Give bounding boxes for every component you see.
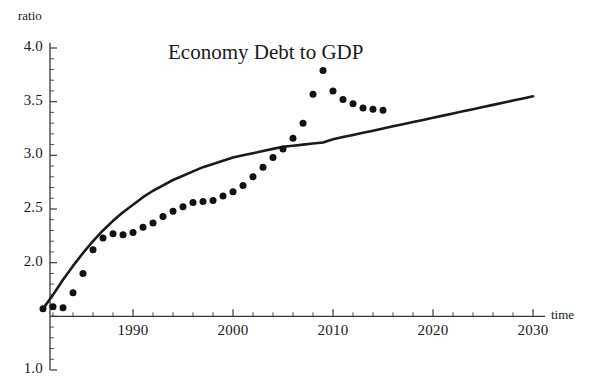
x-tick-label: 2030 xyxy=(503,322,563,339)
data-point xyxy=(170,208,177,215)
x-tick-label: 2000 xyxy=(203,322,263,339)
data-series xyxy=(40,67,534,312)
y-tick-label: 1.0 xyxy=(0,360,43,377)
x-tick-label: 2010 xyxy=(303,322,363,339)
data-point xyxy=(380,107,387,114)
y-tick-label: 4.0 xyxy=(0,38,43,55)
data-point xyxy=(320,67,327,74)
data-point xyxy=(160,213,167,220)
x-tick-label: 2020 xyxy=(403,322,463,339)
chart-canvas: Economy Debt to GDP ratio time 1.02.02.5… xyxy=(0,0,590,383)
y-tick-label: 3.5 xyxy=(0,92,43,109)
data-point xyxy=(290,135,297,142)
data-point xyxy=(220,193,227,200)
data-point xyxy=(330,87,337,94)
data-point xyxy=(360,105,367,112)
data-point xyxy=(40,305,47,312)
data-point xyxy=(340,96,347,103)
model-curve xyxy=(43,96,533,309)
data-point xyxy=(70,289,77,296)
data-point xyxy=(240,182,247,189)
axes xyxy=(50,43,545,370)
x-tick-label: 1990 xyxy=(103,322,163,339)
data-point xyxy=(190,199,197,206)
data-point xyxy=(280,145,287,152)
data-point xyxy=(210,197,217,204)
data-point xyxy=(110,230,117,237)
data-point xyxy=(250,173,257,180)
y-tick-label: 2.0 xyxy=(0,253,43,270)
data-point xyxy=(100,234,107,241)
data-point xyxy=(140,224,147,231)
data-point xyxy=(260,164,267,171)
data-point xyxy=(300,120,307,127)
data-point xyxy=(230,188,237,195)
plot-area xyxy=(0,0,590,383)
y-tick-label: 3.0 xyxy=(0,145,43,162)
data-point xyxy=(50,303,57,310)
data-point xyxy=(370,106,377,113)
data-point xyxy=(130,229,137,236)
data-point xyxy=(200,198,207,205)
data-point xyxy=(310,91,317,98)
data-point xyxy=(80,270,87,277)
data-point xyxy=(90,246,97,253)
data-point xyxy=(150,219,157,226)
data-point xyxy=(180,203,187,210)
data-point xyxy=(60,304,67,311)
y-tick-label: 2.5 xyxy=(0,199,43,216)
data-point xyxy=(270,154,277,161)
data-point xyxy=(350,100,357,107)
data-point xyxy=(120,231,127,238)
